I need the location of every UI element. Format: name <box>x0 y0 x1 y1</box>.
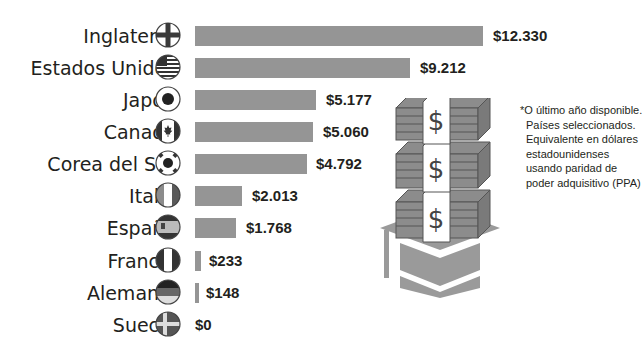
bar <box>195 186 242 206</box>
value-label: $1.768 <box>246 217 292 239</box>
usa-flag-icon <box>155 54 181 80</box>
chart-row-usa: Estados Unidos $9.212 <box>0 54 643 82</box>
bar <box>195 90 316 110</box>
money-stacks-on-graduation-cap-icon: $ $ $ <box>378 98 503 348</box>
bar <box>195 122 313 142</box>
bar <box>195 26 483 46</box>
italy-flag-icon <box>155 182 181 208</box>
footnote-line: estadounidenses <box>520 147 642 162</box>
value-label: $148 <box>206 282 239 304</box>
japan-flag-icon <box>155 86 181 112</box>
france-flag-icon <box>155 247 181 273</box>
footnote-line: usando paridad de <box>520 161 642 176</box>
bar <box>195 283 199 303</box>
svg-text:$: $ <box>428 106 445 136</box>
bar <box>195 218 236 238</box>
value-label: $233 <box>209 250 242 272</box>
value-label: $9.212 <box>420 57 466 79</box>
value-label: $12.330 <box>493 25 547 47</box>
svg-text:$: $ <box>428 204 445 234</box>
footnote-line: poder adquisitivo (PPA) <box>520 176 642 191</box>
chart-row-sweden: Suecia $0 <box>0 311 643 339</box>
footnote: *O último año disponible. Países selecci… <box>520 103 642 190</box>
bar <box>195 58 410 78</box>
value-label: $5.177 <box>326 89 372 111</box>
bar <box>195 154 307 174</box>
svg-text:$: $ <box>428 154 445 184</box>
sweden-flag-icon <box>155 311 181 337</box>
south-korea-flag-icon <box>155 150 181 176</box>
chart-row-spain: España $1.768 <box>0 214 643 242</box>
value-label: $5.060 <box>323 121 369 143</box>
value-label: $2.013 <box>252 185 298 207</box>
footnote-line: *O último año disponible. <box>520 103 642 118</box>
footnote-line: Equivalente en dólares <box>520 132 642 147</box>
chart-row-france: Francia $233 <box>0 247 643 275</box>
chart-row-germany: Alemania $148 <box>0 279 643 307</box>
germany-flag-icon <box>155 279 181 305</box>
canada-flag-icon <box>155 118 181 144</box>
cut-off-subtitle <box>130 0 643 3</box>
value-label: $0 <box>195 314 212 336</box>
bar <box>195 251 201 271</box>
footnote-line: Países seleccionados. <box>520 118 642 133</box>
spain-flag-icon <box>155 214 181 240</box>
england-flag-icon <box>155 22 181 48</box>
chart-row-england: Inglaterra $12.330 <box>0 22 643 50</box>
value-label: $4.792 <box>316 153 362 175</box>
